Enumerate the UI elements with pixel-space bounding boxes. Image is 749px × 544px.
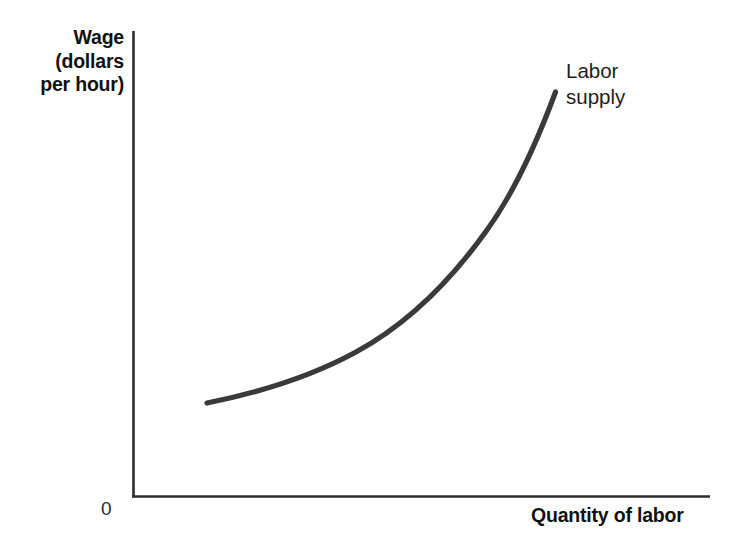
- x-axis-label: Quantity of labor: [531, 504, 684, 527]
- labor-supply-curve: [207, 92, 556, 403]
- labor-supply-chart: Wage (dollars per hour) Quantity of labo…: [0, 0, 749, 544]
- origin-label: 0: [101, 497, 112, 520]
- labor-supply-curve-label: Labor supply: [566, 58, 625, 110]
- y-axis-label: Wage (dollars per hour): [0, 26, 124, 97]
